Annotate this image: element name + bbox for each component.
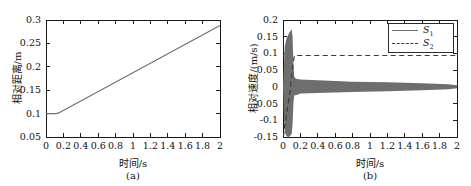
panel-a-yticks-right [216, 43, 220, 113]
panel-b-xtick-0: 0 [280, 141, 286, 151]
panel-a-xtick-7: 1.4 [160, 141, 175, 151]
legend-item-s1[interactable]: S1 [389, 24, 453, 37]
panel-b-s2-reference-line [283, 56, 457, 138]
panel-b-ytick-1: -0.1 [236, 116, 278, 126]
panel-a-xaxis-title-text: 时间 [119, 158, 139, 169]
panel-a-distance-curve [46, 25, 220, 113]
panel-a-ytick-4: 0.25 [10, 39, 41, 49]
panel-a-caption: (a) [126, 170, 140, 181]
panel-b-xtick-4: 0.8 [345, 141, 360, 151]
panel-b-xaxis-title-text: 时间 [356, 158, 376, 169]
panel-b-yaxis-title-unit: /(m/s) [248, 43, 259, 72]
legend-item-s2[interactable]: S2 [389, 37, 453, 50]
panel-a-xtick-5: 1 [130, 141, 136, 151]
panel-a-yaxis-title-text: 相对距离 [12, 64, 23, 104]
panel-a-xtick-2: 0.4 [73, 141, 88, 151]
panel-b-ytick-0: -0.15 [236, 132, 278, 142]
panel-a-xtick-9: 1.8 [195, 141, 210, 151]
panel-a-yticks-left [46, 20, 50, 137]
panel-b-xtick-6: 1.2 [380, 141, 395, 151]
panel-a-xaxis-title-unit: /s [139, 158, 148, 169]
panel-a-xtick-1: 0.2 [56, 141, 71, 151]
panel-a-ytick-1: 0.1 [10, 109, 41, 119]
panel-a-xtick-4: 0.8 [108, 141, 123, 151]
legend-swatch-solid-icon [392, 30, 418, 31]
panel-a-xtick-8: 1.6 [178, 141, 193, 151]
panel-b-xtick-2: 0.4 [310, 141, 325, 151]
panel-a-xticks-top [63, 20, 202, 24]
panel-a: 0.05 0.1 0.15 0.2 0.25 0.3 0 0.2 0.4 0.6… [0, 0, 236, 186]
panel-b-xtick-3: 0.6 [328, 141, 343, 151]
panel-b-caption: (b) [363, 170, 377, 181]
panel-b-xtick-10: 2 [454, 141, 460, 151]
panel-b-xtick-9: 1.8 [432, 141, 447, 151]
legend-swatch-dashed-icon [392, 43, 418, 44]
panel-b-xtick-5: 1 [367, 141, 373, 151]
panel-a-axes-frame [46, 20, 220, 137]
panel-b-ytick-7: 0.2 [236, 15, 278, 25]
panel-b-legend: S1 S2 [388, 23, 454, 53]
legend-label-s2: S2 [423, 37, 434, 51]
legend-label-s2-sub: 2 [430, 42, 434, 50]
panel-a-yaxis-title-unit: /m [12, 52, 23, 65]
panel-a-ytick-0: 0.05 [10, 132, 41, 142]
panel-b-ytick-6: 0.15 [236, 32, 278, 42]
panel-a-xtick-6: 1.2 [143, 141, 158, 151]
panel-a-xaxis-title: 时间/s [119, 155, 148, 170]
panel-a-xtick-3: 0.6 [91, 141, 106, 151]
panel-b-xtick-8: 1.6 [415, 141, 430, 151]
panel-b-yaxis-title: 相对速度/(m/s) [245, 43, 260, 112]
panel-a-xticks-bottom [46, 133, 220, 137]
panel-b-xaxis-title-unit: /s [376, 158, 385, 169]
legend-label-s1: S1 [423, 24, 434, 38]
panel-b-xticks-bottom [283, 133, 457, 137]
panel-b-xtick-7: 1.4 [397, 141, 412, 151]
panel-a-yaxis-title: 相对距离/m [9, 52, 24, 105]
panel-b-yaxis-title-text: 相对速度 [248, 73, 259, 113]
figure-root: 0.05 0.1 0.15 0.2 0.25 0.3 0 0.2 0.4 0.6… [0, 0, 471, 186]
panel-a-xtick-0: 0 [43, 141, 49, 151]
panel-b: -0.15 -0.1 -0.05 0 0.05 0.1 0.15 0.2 0 0… [236, 0, 471, 186]
panel-a-ytick-5: 0.3 [10, 15, 41, 25]
panel-b-xtick-1: 0.2 [293, 141, 308, 151]
panel-b-xaxis-title: 时间/s [356, 155, 385, 170]
panel-a-xtick-10: 2 [217, 141, 223, 151]
